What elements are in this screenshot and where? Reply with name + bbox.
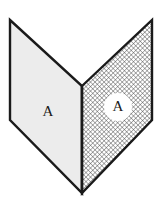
left-panel-label: A (43, 103, 54, 119)
figure-canvas: A A (0, 0, 165, 202)
right-panel-label: A (113, 98, 124, 114)
folded-plane-diagram: A A (0, 0, 165, 202)
